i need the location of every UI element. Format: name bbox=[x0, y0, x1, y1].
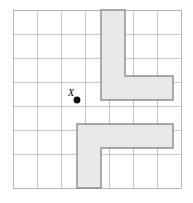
figure-container: X bbox=[0, 0, 193, 203]
lower-l-shape bbox=[77, 124, 173, 188]
geometry-figure: X bbox=[0, 0, 193, 203]
center-point-label: X bbox=[67, 87, 75, 98]
center-point-dot bbox=[74, 97, 81, 104]
upper-l-shape bbox=[101, 10, 173, 100]
